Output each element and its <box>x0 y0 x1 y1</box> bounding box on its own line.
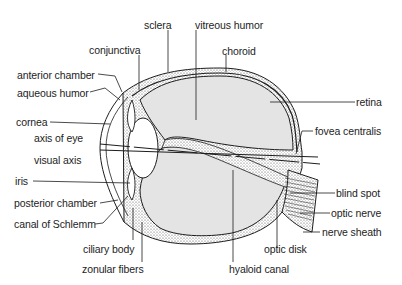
label-iris: iris <box>15 175 28 187</box>
label-axis-of-eye: axis of eye <box>34 132 83 144</box>
label-ciliary-body: ciliary body <box>83 243 134 255</box>
label-canal-of-schlemm: canal of Schlemm <box>14 218 96 230</box>
label-sclera: sclera <box>144 19 171 31</box>
label-retina: retina <box>356 96 382 108</box>
label-anterior-chamber: anterior chamber <box>17 69 95 81</box>
label-vitreous-humor: vitreous humor <box>195 19 263 31</box>
label-choroid: choroid <box>222 45 256 57</box>
label-fovea-centralis: fovea centralis <box>315 125 381 137</box>
label-zonular-fibers: zonular fibers <box>82 263 144 275</box>
label-optic-nerve: optic nerve <box>331 207 381 219</box>
label-hyaloid-canal: hyaloid canal <box>229 263 289 275</box>
label-aqueous-humor: aqueous humor <box>17 87 89 99</box>
label-blind-spot: blind spot <box>336 187 380 199</box>
label-visual-axis: visual axis <box>34 154 81 166</box>
label-cornea: cornea <box>16 116 48 128</box>
label-posterior-chamber: posterior chamber <box>14 197 97 209</box>
label-nerve-sheath: nerve sheath <box>322 226 382 238</box>
label-optic-disk: optic disk <box>264 243 307 255</box>
label-conjunctiva: conjunctiva <box>89 44 140 56</box>
